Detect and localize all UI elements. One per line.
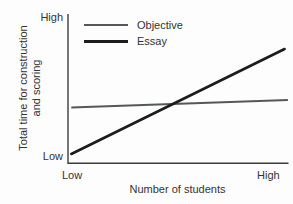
legend-item-objective: Objective bbox=[84, 17, 183, 33]
objective-line-swatch bbox=[84, 24, 128, 26]
y-axis-title-line1: Total time for construction bbox=[17, 25, 30, 150]
y-axis-title: Total time for construction and scoring bbox=[17, 25, 43, 150]
x-axis-title: Number of students bbox=[67, 183, 288, 196]
chart-figure: Total time for construction and scoring … bbox=[0, 0, 293, 204]
essay-line-swatch bbox=[84, 40, 128, 43]
legend-label-objective: Objective bbox=[137, 19, 183, 32]
x-tick-high: High bbox=[257, 169, 280, 182]
y-tick-low: Low bbox=[0, 150, 63, 163]
y-axis-title-line2: and scoring bbox=[30, 25, 43, 150]
y-tick-high: High bbox=[0, 11, 63, 24]
x-tick-low: Low bbox=[62, 169, 82, 182]
legend-item-essay: Essay bbox=[84, 33, 183, 49]
legend: Objective Essay bbox=[84, 17, 183, 49]
legend-label-essay: Essay bbox=[137, 35, 167, 48]
